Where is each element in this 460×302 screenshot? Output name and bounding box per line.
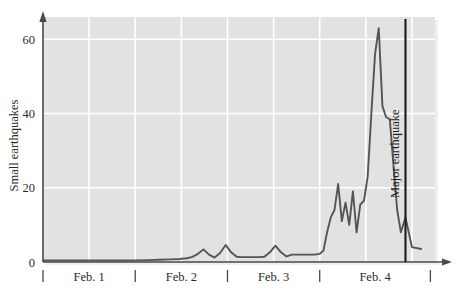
plot-background [43, 17, 435, 262]
y-tick-label: 60 [23, 33, 36, 47]
x-category-labels: Feb. 1Feb. 2Feb. 3Feb. 4 [73, 270, 391, 284]
y-axis-title: Small earthquakes [7, 99, 21, 191]
annotation-label: Major earthquake [388, 109, 402, 198]
y-tick-label: 40 [23, 107, 36, 121]
x-category-label: Feb. 3 [258, 270, 289, 284]
y-axis-title-text: Small earthquakes [7, 99, 21, 191]
earthquake-chart: 0204060 Feb. 1Feb. 2Feb. 3Feb. 4 Major e… [0, 0, 460, 302]
plot-background-group [43, 17, 438, 265]
y-axis-arrowhead [39, 11, 46, 22]
y-tick-label: 20 [23, 181, 36, 195]
y-tick-label: 0 [29, 256, 35, 270]
chart-canvas: 0204060 Feb. 1Feb. 2Feb. 3Feb. 4 Major e… [0, 0, 460, 302]
x-category-label: Feb. 1 [73, 270, 104, 284]
y-tick-labels: 0204060 [23, 33, 36, 270]
x-category-label: Feb. 4 [359, 270, 391, 284]
x-category-label: Feb. 2 [166, 270, 197, 284]
x-axis-arrowhead [442, 258, 452, 265]
